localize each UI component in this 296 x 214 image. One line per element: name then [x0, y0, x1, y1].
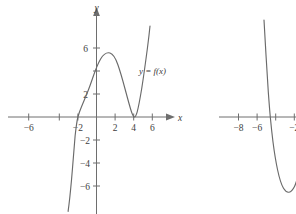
right-x-tick-label--2: −2: [289, 123, 296, 133]
function-label: y = f(x): [139, 60, 166, 78]
right-graph-panel: −8 −6 −2: [0, 0, 296, 214]
function-label-text: y = f(x): [139, 66, 166, 76]
right-x-tick-label--8: −8: [233, 123, 243, 133]
right-curve: [264, 20, 296, 192]
right-graph-svg: −8 −6 −2: [0, 0, 296, 214]
figure-root: −6 −2 2 4 6 6 2 −2 −4 −6 x y: [0, 0, 296, 214]
right-x-tick-label--6: −6: [252, 123, 262, 133]
